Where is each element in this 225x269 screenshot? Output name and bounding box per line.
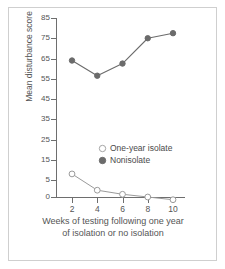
y-tick-label-0: 0: [24, 193, 50, 201]
y-tick-55: [51, 79, 56, 80]
x-tick-6: [123, 198, 124, 203]
x-tick-label-2: 2: [62, 205, 82, 214]
x-tick-8: [148, 198, 149, 203]
x-axis-label: Weeks of testing following one year of i…: [14, 216, 212, 239]
y-tick-label-container: 55: [22, 75, 50, 83]
open-circle-icon: [97, 144, 108, 153]
y-axis-line: [56, 18, 57, 198]
y-tick-65: [51, 59, 56, 60]
y-tick-85: [51, 18, 56, 19]
legend-label-one-year-isolate: One-year isolate: [108, 142, 172, 154]
y-tick-0: [51, 197, 56, 198]
y-tick-label-container: 5: [22, 176, 50, 184]
y-tick-label-container: 25: [22, 136, 50, 144]
y-tick-45: [51, 99, 56, 100]
y-tick-label-55: 55: [24, 75, 50, 83]
y-tick-label-5: 5: [24, 176, 50, 184]
y-tick-label-container: 65: [22, 55, 50, 63]
x-tick-label-6: 6: [113, 205, 133, 214]
y-tick-label-65: 65: [24, 55, 50, 63]
y-tick-label-35: 35: [24, 115, 50, 123]
y-tick-5: [51, 180, 56, 181]
x-axis-label-line1: Weeks of testing following one year: [14, 216, 212, 228]
x-tick-2: [72, 198, 73, 203]
x-tick-label-4: 4: [87, 205, 107, 214]
x-axis-line: [56, 197, 185, 198]
x-tick-4: [97, 198, 98, 203]
y-tick-label-container: 75: [22, 34, 50, 42]
figure-container: Mean disturbance score 05152535455565758…: [0, 0, 225, 269]
filled-circle-icon: [97, 156, 108, 165]
chart-legend: One-year isolate Nonisolate: [97, 142, 172, 166]
y-tick-label-container: 85: [22, 14, 50, 22]
y-tick-25: [51, 140, 56, 141]
y-tick-15: [51, 160, 56, 161]
x-tick-10: [173, 198, 174, 203]
y-tick-35: [51, 119, 56, 120]
x-tick-label-8: 8: [138, 205, 158, 214]
x-tick-label-10: 10: [163, 205, 183, 214]
y-tick-label-15: 15: [24, 156, 50, 164]
legend-label-nonisolate: Nonisolate: [108, 154, 150, 166]
y-tick-label-45: 45: [24, 95, 50, 103]
y-tick-label-25: 25: [24, 136, 50, 144]
legend-item-nonisolate: Nonisolate: [97, 154, 172, 166]
y-tick-label-container: 45: [22, 95, 50, 103]
y-tick-label-85: 85: [24, 14, 50, 22]
x-axis-label-line2: of isolation or no isolation: [14, 228, 212, 240]
y-tick-label-container: 0: [22, 193, 50, 201]
y-tick-label-container: 35: [22, 115, 50, 123]
y-tick-75: [51, 38, 56, 39]
legend-item-one-year-isolate: One-year isolate: [97, 142, 172, 154]
y-tick-label-75: 75: [24, 34, 50, 42]
y-tick-label-container: 15: [22, 156, 50, 164]
